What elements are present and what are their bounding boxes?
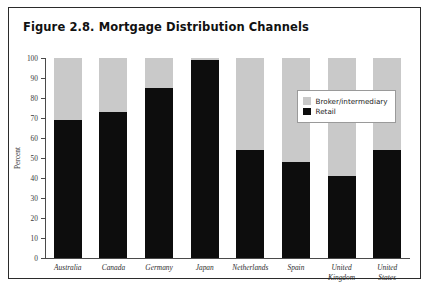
stacked-bar	[236, 58, 264, 258]
stacked-bar	[282, 58, 310, 258]
y-tick-label: 10	[31, 234, 38, 243]
bar-slot: Spain	[282, 58, 310, 258]
bar-segment-retail	[236, 150, 264, 258]
legend-item-retail: Retail	[303, 107, 388, 116]
bar-segment-retail	[99, 112, 127, 258]
y-tick-label: 60	[31, 134, 38, 143]
bar-slot: Australia	[54, 58, 82, 258]
stacked-bar	[99, 58, 127, 258]
bar-segment-broker	[54, 58, 82, 120]
figure-title: Figure 2.8. Mortgage Distribution Channe…	[23, 20, 309, 34]
x-axis-line	[45, 258, 410, 259]
bar-segment-broker	[236, 58, 264, 150]
y-tick-label: 80	[31, 94, 38, 103]
bar-slot: United States	[373, 58, 401, 258]
x-tick-label: United States	[358, 263, 416, 282]
figure-panel: Figure 2.8. Mortgage Distribution Channe…	[8, 7, 421, 279]
bar-segment-retail	[145, 88, 173, 258]
broker-swatch	[303, 97, 311, 105]
y-axis-title: Percent	[13, 147, 22, 169]
bar-segment-broker	[145, 58, 173, 88]
y-tick-label: 90	[31, 74, 38, 83]
bar-segment-retail	[282, 162, 310, 258]
y-tick-label: 50	[31, 154, 38, 163]
bar-segment-retail	[373, 150, 401, 258]
bar-segment-retail	[54, 120, 82, 258]
stacked-bar	[373, 58, 401, 258]
retail-swatch	[303, 108, 311, 116]
bar-slot: Canada	[99, 58, 127, 258]
bar-slot: Netherlands	[236, 58, 264, 258]
y-tick-label: 30	[31, 194, 38, 203]
chart-legend: Broker/intermediary Retail	[297, 90, 396, 123]
stacked-bar	[191, 58, 219, 258]
bar-slot: Japan	[191, 58, 219, 258]
bar-segment-retail	[328, 176, 356, 258]
bar-group: AustraliaCanadaGermanyJapanNetherlandsSp…	[45, 58, 410, 258]
y-tick-label: 40	[31, 174, 38, 183]
y-tick-label: 70	[31, 114, 38, 123]
y-tick-label: 20	[31, 214, 38, 223]
stacked-bar	[145, 58, 173, 258]
legend-item-broker: Broker/intermediary	[303, 97, 388, 106]
bar-segment-broker	[99, 58, 127, 112]
chart-plot-area: Percent 0102030405060708090100 Australia…	[45, 58, 410, 258]
legend-label-retail: Retail	[316, 107, 336, 116]
bar-slot: United Kingdom	[328, 58, 356, 258]
bar-segment-retail	[191, 60, 219, 258]
y-tick-label: 100	[27, 54, 38, 63]
stacked-bar	[54, 58, 82, 258]
y-tick	[41, 258, 46, 259]
bar-slot: Germany	[145, 58, 173, 258]
legend-label-broker: Broker/intermediary	[316, 97, 388, 106]
stacked-bar	[328, 58, 356, 258]
y-tick-label: 0	[34, 254, 38, 263]
